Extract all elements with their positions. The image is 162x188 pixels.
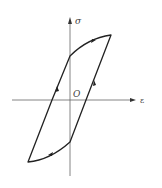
origin-label: O: [73, 89, 81, 99]
direction-arrow-icon: [55, 86, 59, 92]
strain-axis-arrow-icon: [130, 98, 136, 102]
strain-axis-label: ε: [140, 96, 144, 105]
hysteresis-loop-curve: [28, 35, 111, 162]
stress-axis-label: σ: [75, 16, 82, 26]
hysteresis-diagram: σ ε O: [0, 0, 162, 188]
direction-arrow-icon: [48, 152, 53, 156]
stress-axis-arrow-icon: [68, 17, 72, 24]
